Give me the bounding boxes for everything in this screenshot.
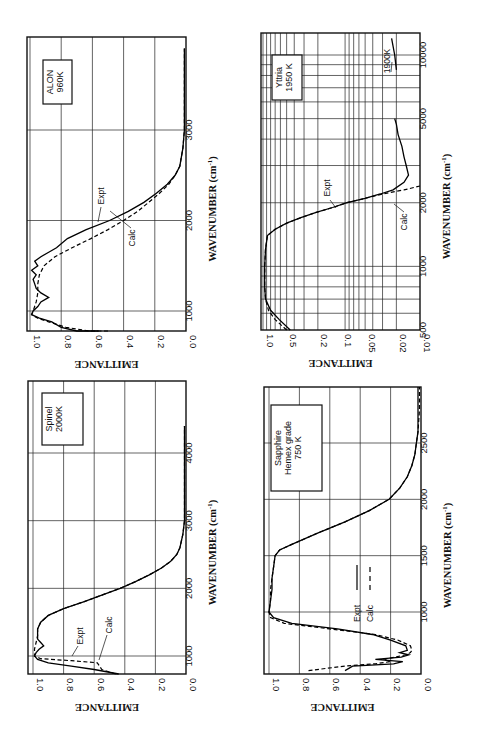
y-tick-label: 0.1	[343, 334, 354, 347]
y-tick-label: 0.2	[392, 678, 403, 691]
y-tick-label: 1.0	[271, 678, 282, 691]
x-tick-label: 2000	[183, 210, 194, 231]
series-expt	[35, 426, 185, 674]
annotation-calc: Calc	[127, 229, 137, 247]
y-tick-label: 0.4	[125, 335, 136, 348]
x-tick-label: 2500	[418, 432, 429, 453]
y-tick-label: 0.8	[63, 335, 74, 348]
annotation-1900k: 1900K	[382, 48, 392, 73]
x-tick-label: 1000	[183, 645, 194, 666]
x-axis-label: WAVENUMBER (cm-1)	[206, 156, 219, 262]
material-label-line: Spinel	[44, 406, 54, 431]
y-tick-label: 0.0	[188, 335, 199, 348]
series-expt	[265, 119, 409, 330]
y-tick-label: 0.6	[331, 678, 342, 691]
y-tick-label: 0.8	[65, 678, 76, 691]
annotation-leader	[72, 646, 78, 656]
x-tick-label: 1000	[183, 300, 194, 321]
y-tick-label: 1.0	[35, 678, 46, 691]
y-tick-label: 0.5	[288, 334, 299, 347]
y-tick-label: 0.4	[362, 678, 373, 691]
annotation-calc: Calc	[104, 616, 114, 634]
x-tick-label: 500	[417, 322, 428, 338]
x-tick-label: 1500	[418, 545, 429, 566]
y-tick-label: 0.2	[319, 334, 330, 347]
x-tick-label: 5000	[417, 108, 428, 129]
x-tick-label: 3000	[183, 510, 194, 531]
material-label-line: Yttria	[274, 67, 284, 88]
x-tick-label: 1000	[417, 256, 428, 277]
x-axis-label: WAVENUMBER (cm-1)	[206, 499, 219, 605]
annotation-expt: Expt	[322, 179, 332, 197]
y-tick-label: 1.0	[32, 335, 43, 348]
x-tick-label: 2000	[418, 489, 429, 510]
y-axis-label: EMITTANCE	[311, 702, 375, 713]
x-tick-label: 4000	[183, 442, 194, 463]
y-tick-label: 0.6	[94, 335, 105, 348]
series-1900k	[392, 38, 397, 70]
y-tick-label: 1.0	[265, 334, 276, 347]
annotation-leader	[394, 204, 404, 212]
y-tick-label: 0.8	[301, 678, 312, 691]
x-tick-label: 2000	[417, 192, 428, 213]
annotation-calc: Calc	[399, 213, 409, 231]
chart-spinel: 1.00.80.60.40.20.0EMITTANCE1000200030004…	[28, 381, 219, 713]
annotation-expt: Expt	[96, 187, 106, 205]
material-label-line: 960K	[55, 71, 65, 92]
x-tick-label: 10000	[417, 42, 428, 68]
y-axis-label: EMITTANCE	[309, 358, 373, 369]
y-tick-label: 0.0	[423, 678, 434, 691]
annotation-expt: Expt	[75, 627, 85, 645]
material-label-line: ALON	[45, 70, 55, 95]
annotation-leader	[110, 211, 131, 228]
y-tick-label: 0.2	[156, 335, 167, 348]
chart-sapphire: 1.00.80.60.40.20.0EMITTANCE1000150020002…	[264, 387, 454, 713]
y-tick-label: 0.0	[188, 678, 199, 691]
y-tick-label: 0.2	[157, 678, 168, 691]
chart-alon: 1.00.80.60.40.20.0EMITTANCE100020003000W…	[27, 37, 219, 370]
y-axis-label: EMITTANCE	[75, 702, 139, 713]
material-label-line: Sapphire	[273, 430, 283, 466]
material-label-line: 750 K	[293, 436, 303, 460]
material-label-line: 2000K	[54, 406, 64, 432]
y-tick-label: 0.05	[367, 334, 378, 353]
series-calc	[35, 426, 185, 674]
chart-yttria: 1.00.50.20.10.050.020.01EMITTANCE5001000…	[261, 33, 453, 369]
figure-canvas: 1.00.80.60.40.20.0EMITTANCE100020003000W…	[0, 0, 487, 748]
legend-calc: Calc	[365, 604, 375, 622]
material-label-line: Hemex grade	[283, 421, 293, 475]
material-label-line: 1950 K	[284, 63, 294, 92]
x-tick-label: 1000	[418, 601, 429, 622]
x-axis-label: WAVENUMBER (cm-1)	[441, 502, 454, 608]
x-axis-label: WAVENUMBER (cm-1)	[440, 153, 453, 259]
y-tick-label: 0.02	[398, 334, 409, 353]
y-axis-label: EMITTANCE	[75, 359, 139, 370]
y-tick-label: 0.6	[96, 678, 107, 691]
legend-expt: Expt	[352, 604, 362, 622]
x-tick-label: 2000	[183, 578, 194, 599]
y-tick-label: 0.4	[126, 678, 137, 691]
x-tick-label: 3000	[183, 119, 194, 140]
annotation-leader	[98, 207, 101, 222]
